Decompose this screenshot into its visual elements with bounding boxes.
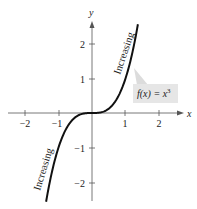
y-axis-arrow-icon (90, 21, 95, 28)
x-axis: x −2 −1 1 2 (8, 108, 192, 129)
chart-plot: f(x) = x3 x −2 −1 1 2 y 2 1 −1 −2 Increa… (0, 0, 197, 209)
y-axis-label: y (88, 7, 94, 18)
y-tick-label: −1 (74, 143, 85, 154)
y-tick-label: 1 (80, 74, 85, 85)
y-axis: y 2 1 −1 −2 (74, 7, 95, 201)
x-axis-arrow-icon (177, 111, 184, 116)
function-label: f(x) = x3 (137, 87, 171, 100)
x-tick-label: 2 (157, 118, 162, 129)
x-axis-label: x (186, 108, 192, 119)
x-tick-label: −1 (52, 118, 63, 129)
callout-pointer (134, 68, 148, 85)
y-tick-label: 2 (80, 39, 85, 50)
x-tick-label: −2 (20, 118, 31, 129)
annotation-increasing-lower: Increasing (31, 146, 55, 192)
x-tick-label: 1 (123, 118, 128, 129)
y-tick-label: −2 (74, 178, 85, 189)
